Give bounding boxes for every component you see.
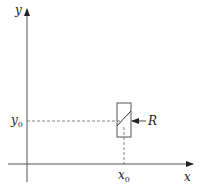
y0-label: y0: [10, 113, 23, 129]
region-label: R: [147, 114, 157, 128]
diagram-canvas: y x y0 x0 R: [0, 0, 205, 189]
x0-label: x0: [118, 168, 130, 184]
x0-label-subscript: 0: [125, 175, 130, 184]
x-axis-label: x: [184, 170, 191, 184]
region-rectangle: [117, 103, 131, 137]
y-axis-label: y: [14, 3, 22, 17]
curve-segment: [117, 111, 131, 126]
y0-label-subscript: 0: [18, 120, 23, 129]
